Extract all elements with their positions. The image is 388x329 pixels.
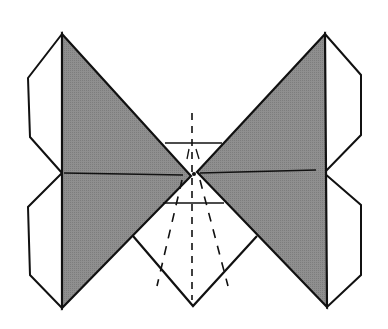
lower-diamond-flap [133,203,257,306]
right-lower-flap [324,173,361,307]
right-upper-flap [324,34,361,173]
origami-butterfly-diagram [0,0,388,329]
center-point [192,172,196,176]
left-upper-flap [28,34,62,173]
left-lower-flap [28,173,62,308]
